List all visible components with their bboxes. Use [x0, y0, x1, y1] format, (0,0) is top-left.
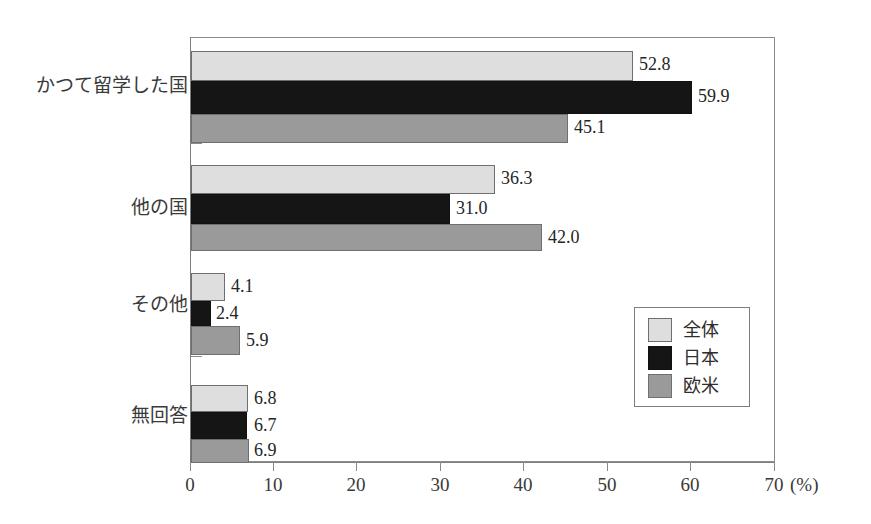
bar-value-g2-s2: 5.9 — [246, 330, 269, 350]
x-axis-tick — [356, 462, 357, 471]
legend-swatch-icon-1 — [648, 346, 672, 370]
category-label-2: その他 — [131, 293, 188, 315]
bar-g3-s1 — [191, 412, 247, 439]
x-axis-label-0: 0 — [185, 474, 195, 496]
bar-value-g3-s2: 6.9 — [254, 440, 277, 460]
bar-g0-s0 — [191, 51, 633, 81]
category-label-0: かつて留学した国 — [36, 74, 188, 96]
legend-label-2: 欧米 — [683, 376, 719, 396]
bar-value-g3-s0: 6.8 — [254, 388, 277, 408]
x-axis-label-20: 20 — [347, 474, 366, 496]
bar-value-g1-s0: 36.3 — [501, 168, 533, 188]
bar-value-g1-s2: 42.0 — [548, 227, 580, 247]
value-axis-line — [190, 462, 775, 463]
bar-g0-s2 — [191, 114, 568, 143]
x-axis-label-30: 30 — [431, 474, 450, 496]
x-axis-tick — [273, 462, 274, 471]
legend-label-1: 日本 — [683, 348, 719, 368]
x-axis-tick — [690, 462, 691, 471]
x-axis-tick — [190, 462, 191, 471]
x-axis-tick — [607, 462, 608, 471]
x-axis-unit-label: (%) — [790, 474, 818, 496]
bar-chart: 0 10 20 30 40 50 60 70 (%) かつて留学した国 他の国 … — [0, 0, 871, 524]
x-axis-tick — [440, 462, 441, 471]
legend-item-0: 全体 — [648, 317, 719, 343]
bar-value-g0-s1: 59.9 — [698, 86, 730, 106]
bar-value-g1-s1: 31.0 — [456, 198, 488, 218]
bar-g0-s1 — [191, 81, 692, 114]
x-axis-label-10: 10 — [264, 474, 283, 496]
x-axis-label-50: 50 — [598, 474, 617, 496]
bar-g1-s0 — [191, 165, 495, 194]
bar-value-g2-s0: 4.1 — [231, 276, 254, 296]
category-axis-tick — [191, 356, 202, 357]
bar-g2-s1 — [191, 301, 211, 326]
category-label-1: 他の国 — [131, 196, 188, 218]
x-axis-label-60: 60 — [681, 474, 700, 496]
x-axis-tick — [523, 462, 524, 471]
category-label-3: 無回答 — [131, 404, 188, 426]
legend-item-1: 日本 — [648, 345, 719, 371]
bar-g2-s0 — [191, 273, 225, 301]
x-axis-label-70: 70 — [765, 474, 784, 496]
legend-item-2: 欧米 — [648, 373, 719, 399]
legend-swatch-icon-0 — [648, 318, 672, 342]
bar-value-g2-s1: 2.4 — [216, 303, 239, 323]
bar-g2-s2 — [191, 326, 240, 355]
category-axis-tick — [191, 143, 202, 144]
legend-swatch-icon-2 — [648, 374, 672, 398]
bar-g3-s0 — [191, 385, 248, 412]
legend-label-0: 全体 — [683, 320, 719, 340]
bar-g3-s2 — [191, 439, 249, 463]
bar-g1-s2 — [191, 224, 542, 251]
bar-value-g0-s0: 52.8 — [639, 54, 671, 74]
bar-value-g0-s2: 45.1 — [574, 117, 606, 137]
legend: 全体 日本 欧米 — [634, 307, 750, 407]
bar-value-g3-s1: 6.7 — [254, 415, 277, 435]
x-axis-label-40: 40 — [514, 474, 533, 496]
x-axis-tick — [774, 462, 775, 471]
bar-g1-s1 — [191, 194, 450, 224]
